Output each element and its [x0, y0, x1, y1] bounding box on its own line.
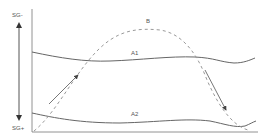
- sg-plus-label: SG+: [12, 125, 25, 131]
- curve-a2: [32, 113, 256, 127]
- sg-scale-arrow: [16, 22, 22, 121]
- arrow-up-icon: [16, 22, 22, 28]
- curve-a1: [32, 52, 255, 63]
- curve-b-label: B: [146, 18, 150, 24]
- curve-a1-label: A1: [131, 50, 139, 56]
- diagram-canvas: SG- SG+ A1 A2 B: [0, 0, 269, 140]
- sg-minus-label: SG-: [12, 12, 23, 18]
- curve-b: [34, 29, 248, 131]
- arrow-down-icon: [16, 115, 22, 121]
- falling-arrow: [205, 70, 226, 110]
- rising-arrow: [49, 75, 78, 104]
- curve-a2-label: A2: [131, 111, 139, 117]
